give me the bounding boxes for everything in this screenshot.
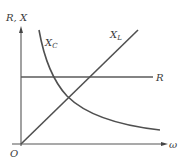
- y-axis-arrow-icon: [19, 26, 23, 33]
- y-axis: [19, 26, 23, 146]
- r-label: R: [155, 72, 164, 83]
- xc-label: XC: [44, 37, 58, 50]
- x-axis: [12, 142, 168, 146]
- y-axis-label: R, X: [5, 12, 28, 23]
- x-axis-arrow-icon: [161, 142, 168, 146]
- origin-label: O: [10, 148, 18, 159]
- x-axis-label: ω: [169, 139, 177, 150]
- reactance-resistance-diagram: R, X ω O XC XL R: [0, 0, 181, 163]
- xl-line: [21, 30, 138, 144]
- xl-label: XL: [109, 29, 122, 42]
